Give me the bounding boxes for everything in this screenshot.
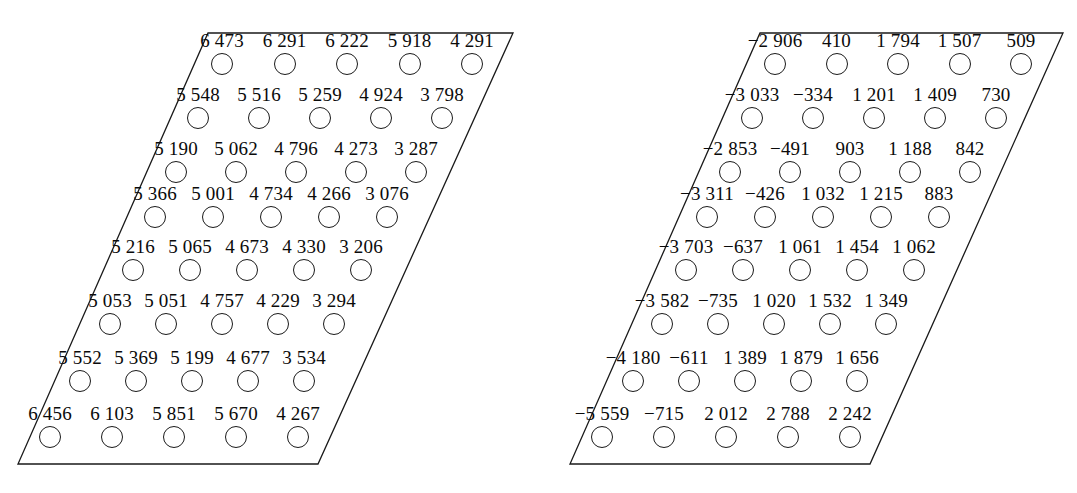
- hole-circle: [959, 161, 981, 183]
- hole-circle: [903, 259, 925, 281]
- hole-circle: [887, 53, 909, 75]
- hole-circle: [675, 259, 697, 281]
- hole-circle: [789, 259, 811, 281]
- hole-circle: [763, 313, 785, 335]
- hole-circle: [790, 370, 812, 392]
- hole-value-label: 1 507: [938, 31, 982, 50]
- hole-circle: [754, 206, 776, 228]
- hole-circle: [779, 161, 801, 183]
- hole-value-label: 1 215: [859, 184, 903, 203]
- hole-value-label: 2 012: [704, 404, 748, 423]
- hole-circle: [924, 107, 946, 129]
- hole-circle: [819, 313, 841, 335]
- hole-circle: [985, 107, 1007, 129]
- hole-value-label: −2 853: [703, 139, 758, 158]
- right-panel: −2 9064101 7941 507509−3 033−3341 2011 4…: [0, 0, 1077, 493]
- hole-value-label: 1 201: [852, 85, 896, 104]
- hole-value-label: −637: [723, 237, 763, 256]
- hole-circle: [715, 426, 737, 448]
- hole-value-label: −3 033: [725, 85, 780, 104]
- hole-value-label: 1 409: [913, 85, 957, 104]
- hole-circle: [734, 370, 756, 392]
- hole-circle: [764, 53, 786, 75]
- hole-value-label: 1 389: [723, 348, 767, 367]
- hole-value-label: 1 656: [835, 348, 879, 367]
- hole-circle: [899, 161, 921, 183]
- hole-circle: [777, 426, 799, 448]
- hole-value-label: 1 349: [864, 291, 908, 310]
- hole-circle: [846, 370, 868, 392]
- hole-circle: [802, 107, 824, 129]
- hole-value-label: 730: [981, 85, 1010, 104]
- hole-value-label: −611: [669, 348, 708, 367]
- hole-value-label: 2 788: [766, 404, 810, 423]
- hole-circle: [949, 53, 971, 75]
- hole-value-label: 1 532: [808, 291, 852, 310]
- hole-circle: [863, 107, 885, 129]
- hole-value-label: −3 582: [635, 291, 690, 310]
- hole-circle: [719, 161, 741, 183]
- hole-value-label: 1 188: [888, 139, 932, 158]
- hole-value-label: 1 879: [779, 348, 823, 367]
- hole-value-label: −3 311: [680, 184, 734, 203]
- hole-value-label: −491: [770, 139, 810, 158]
- hole-value-label: 842: [955, 139, 984, 158]
- hole-value-label: 2 242: [828, 404, 872, 423]
- hole-circle: [839, 426, 861, 448]
- hole-circle: [696, 206, 718, 228]
- hole-value-label: −735: [698, 291, 738, 310]
- hole-value-label: 1 794: [876, 31, 920, 50]
- hole-circle: [591, 426, 613, 448]
- hole-circle: [651, 313, 673, 335]
- hole-value-label: −715: [644, 404, 684, 423]
- hole-circle: [707, 313, 729, 335]
- hole-value-label: −3 703: [659, 237, 714, 256]
- hole-circle: [870, 206, 892, 228]
- hole-value-label: 1 020: [752, 291, 796, 310]
- hole-value-label: −426: [745, 184, 785, 203]
- hole-circle: [678, 370, 700, 392]
- hole-circle: [1010, 53, 1032, 75]
- hole-circle: [812, 206, 834, 228]
- hole-circle: [622, 370, 644, 392]
- hole-circle: [653, 426, 675, 448]
- hole-circle: [839, 161, 861, 183]
- hole-circle: [875, 313, 897, 335]
- hole-value-label: −4 180: [606, 348, 661, 367]
- figure-root: 6 4736 2916 2225 9184 2915 5485 5165 259…: [0, 0, 1077, 493]
- hole-circle: [741, 107, 763, 129]
- hole-value-label: −5 559: [575, 404, 630, 423]
- hole-value-label: 410: [822, 31, 851, 50]
- hole-circle: [732, 259, 754, 281]
- hole-value-label: 1 032: [801, 184, 845, 203]
- hole-value-label: 903: [835, 139, 864, 158]
- hole-circle: [826, 53, 848, 75]
- hole-value-label: −334: [793, 85, 833, 104]
- hole-circle: [928, 206, 950, 228]
- hole-value-label: 1 454: [835, 237, 879, 256]
- hole-value-label: −2 906: [748, 31, 803, 50]
- hole-value-label: 509: [1006, 31, 1035, 50]
- hole-value-label: 883: [924, 184, 953, 203]
- hole-circle: [846, 259, 868, 281]
- hole-value-label: 1 062: [892, 237, 936, 256]
- hole-value-label: 1 061: [778, 237, 822, 256]
